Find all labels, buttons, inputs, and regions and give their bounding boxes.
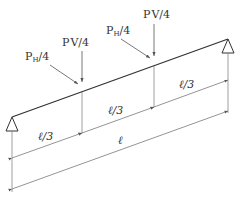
- load-label-ph-2: PH/4: [106, 24, 130, 38]
- dim-line-total: [12, 111, 228, 189]
- load-label-ph-1: PH/4: [25, 50, 49, 64]
- dim-label-segment-3: ℓ/3: [179, 78, 194, 91]
- horizontal-load-arrow-1: [50, 65, 78, 84]
- left-support-icon: [6, 117, 18, 131]
- dim-label-segment-1: ℓ/3: [38, 130, 53, 143]
- dim-label-segment-2: ℓ/3: [108, 104, 123, 117]
- load-label-pv-2: PV/4: [143, 8, 170, 21]
- dim-label-total: ℓ: [118, 134, 123, 147]
- beam-diagram: ℓ/3 ℓ/3 ℓ/3 ℓ PH/4 PV/4 PH/4 PV/4: [0, 0, 237, 202]
- horizontal-load-arrow-2: [121, 39, 150, 58]
- load-label-pv-1: PV/4: [62, 36, 89, 49]
